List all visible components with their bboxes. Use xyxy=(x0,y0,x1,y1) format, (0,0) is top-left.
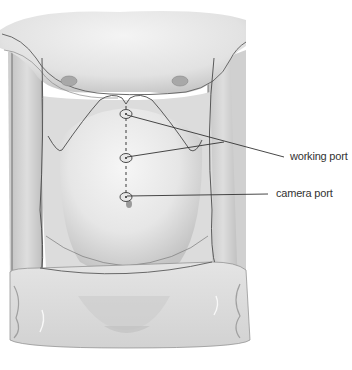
torso-illustration: working port camera port xyxy=(0,0,352,370)
lower-drape xyxy=(10,262,250,348)
working-port-label: working port xyxy=(290,150,348,162)
camera-port-label: camera port xyxy=(276,187,333,199)
right-nipple xyxy=(172,76,188,86)
left-nipple xyxy=(61,76,77,86)
torso-svg xyxy=(0,0,352,370)
